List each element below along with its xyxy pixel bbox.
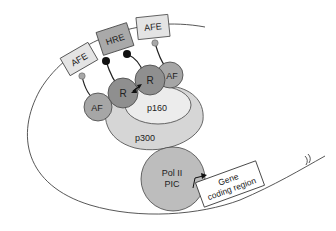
p160-label: p160 (147, 103, 167, 113)
pol2-label: Pol II (162, 168, 183, 178)
af-right-label: AF (166, 71, 178, 81)
gene-coding-region: Gene coding region (195, 161, 264, 207)
pic-label: PIC (164, 179, 180, 189)
hre-contact-dot-left (102, 57, 110, 65)
receptor-right-label: R (146, 75, 153, 86)
dna-break-icon (305, 154, 310, 165)
afe-left-contact-dot (79, 73, 85, 79)
afe-right-contact-dot (152, 40, 158, 46)
p300-label: p300 (135, 133, 155, 143)
af-left: AF (84, 93, 112, 121)
pol2-pic: Pol II PIC (141, 147, 205, 211)
afe-right-element: AFE (136, 14, 170, 39)
hre-contact-dot-right (123, 50, 131, 58)
af-left-label: AF (91, 103, 103, 113)
receptor-right: R (135, 65, 165, 95)
afe-left-element: AFE (60, 42, 98, 75)
afe-right-label: AFE (144, 21, 162, 33)
receptor-left-label: R (119, 88, 126, 99)
gene-regulation-diagram: p300 p160 AF AF R R AFE (0, 0, 336, 231)
